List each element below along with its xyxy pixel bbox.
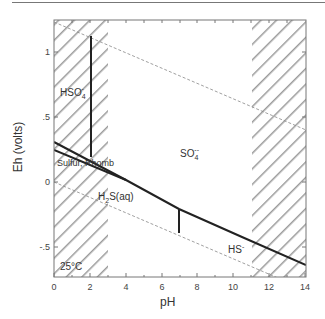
label-hs: HS- <box>228 243 245 255</box>
y-tick-label: 1 <box>45 47 50 57</box>
label-sulfur-rhomb: Sulfur, Rhomb <box>57 158 114 168</box>
eh-ph-diagram: 0 2 4 6 8 10 12 14 1 .5 0 -.5 HSO4- SO4-… <box>0 0 325 319</box>
x-tick-label: 0 <box>51 282 56 292</box>
x-tick-label: 10 <box>228 282 238 292</box>
label-hso4: HSO4- <box>60 85 86 100</box>
x-tick-label: 12 <box>264 282 274 292</box>
y-tick-label: -.5 <box>39 242 50 252</box>
hatched-region-alkaline <box>252 20 306 277</box>
x-axis-label: pH <box>160 295 175 309</box>
x-tick-label: 6 <box>159 282 164 292</box>
x-tick-label: 8 <box>194 282 199 292</box>
y-tick-label: .5 <box>42 112 50 122</box>
label-so4: SO4-- <box>180 146 200 161</box>
x-tick-label: 2 <box>87 282 92 292</box>
hatched-region-acid <box>54 20 108 277</box>
x-tick-label: 14 <box>300 282 310 292</box>
y-tick-label: 0 <box>45 177 50 187</box>
x-tick-label: 4 <box>123 282 128 292</box>
y-axis-label: Eh (volts) <box>11 107 25 187</box>
label-temperature: 25°C <box>60 261 82 272</box>
